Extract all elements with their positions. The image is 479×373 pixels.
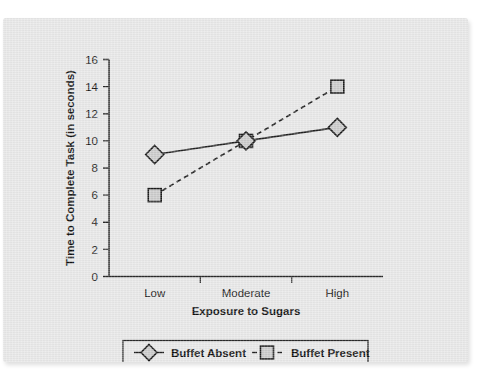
y-tick-label-10: 10 — [85, 135, 98, 147]
x-tick-label-high: High — [325, 287, 349, 299]
y-tick-label-12: 12 — [85, 108, 98, 120]
y-tick-label-8: 8 — [92, 162, 98, 174]
data-point-present-low — [148, 189, 161, 202]
y-axis: 0 2 4 6 8 10 12 14 16 — [85, 54, 109, 283]
y-axis-title: Time to Complete Task (in seconds) — [64, 70, 76, 266]
y-tick-label-2: 2 — [92, 244, 98, 256]
chart-legend: Buffet Absent Buffet Present — [123, 341, 370, 363]
line-chart: 0 2 4 6 8 10 12 14 16 Low Moderate High … — [3, 18, 468, 362]
x-axis: Low Moderate High — [109, 277, 383, 300]
legend-label-buffet-present: Buffet Present — [291, 347, 370, 359]
data-point-present-high — [331, 80, 344, 93]
legend-item-buffet-present[interactable]: Buffet Present — [252, 346, 370, 359]
x-axis-title: Exposure to Sugars — [192, 305, 301, 317]
y-tick-label-16: 16 — [85, 54, 98, 66]
legend-item-buffet-absent[interactable]: Buffet Absent — [134, 345, 246, 361]
legend-label-buffet-absent: Buffet Absent — [171, 347, 246, 359]
figure-card: 0 2 4 6 8 10 12 14 16 Low Moderate High … — [3, 18, 468, 362]
y-tick-label-6: 6 — [92, 189, 98, 201]
series-buffet-absent — [146, 118, 347, 163]
legend-marker-square-icon — [261, 346, 274, 359]
data-point-absent-low — [146, 146, 164, 164]
data-point-absent-high — [328, 118, 346, 136]
y-tick-label-0: 0 — [92, 271, 98, 283]
x-tick-label-low: Low — [144, 287, 166, 299]
y-tick-label-4: 4 — [92, 216, 99, 228]
x-tick-label-moderate: Moderate — [222, 287, 271, 299]
y-tick-label-14: 14 — [85, 81, 98, 93]
